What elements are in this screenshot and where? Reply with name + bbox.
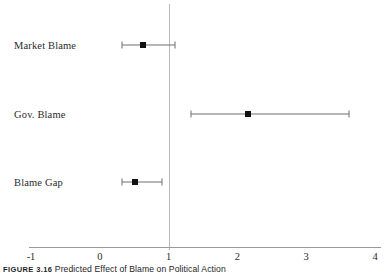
estimate-marker-blame-gap xyxy=(132,179,138,185)
x-tick-label: 4 xyxy=(372,251,377,262)
x-tick-label: 3 xyxy=(304,251,309,262)
caption-text: Predicted Effect of Blame on Political A… xyxy=(55,264,226,274)
ci-cap-high-market-blame xyxy=(175,42,176,49)
ci-cap-high-gov-blame xyxy=(348,111,349,118)
ci-cap-low-blame-gap xyxy=(121,179,122,186)
x-axis-line xyxy=(29,247,381,248)
category-label-market-blame: Market Blame xyxy=(14,40,76,51)
ci-cap-high-blame-gap xyxy=(161,179,162,186)
confidence-interval-market-blame xyxy=(122,45,176,46)
estimate-marker-gov-blame xyxy=(245,111,251,117)
confidence-interval-blame-gap xyxy=(122,182,162,183)
x-tick-label: 1 xyxy=(166,251,171,262)
category-label-gov-blame: Gov. Blame xyxy=(14,109,66,120)
category-label-blame-gap: Blame Gap xyxy=(14,177,63,188)
plot-area: Market Blame Gov. Blame Blame Gap -1 0 1… xyxy=(0,0,392,250)
ci-cap-low-market-blame xyxy=(121,42,122,49)
figure-container: Market Blame Gov. Blame Blame Gap -1 0 1… xyxy=(0,0,392,278)
confidence-interval-gov-blame xyxy=(191,114,349,115)
figure-caption: FIGURE 3.16 Predicted Effect of Blame on… xyxy=(3,264,389,274)
x-tick-label: 0 xyxy=(97,251,102,262)
x-tick-label: 2 xyxy=(235,251,240,262)
x-tick-label: -1 xyxy=(27,251,36,262)
ci-cap-low-gov-blame xyxy=(190,111,191,118)
figure-number: FIGURE 3.16 xyxy=(3,265,52,274)
estimate-marker-market-blame xyxy=(140,42,146,48)
reference-line-at-one xyxy=(169,4,170,250)
